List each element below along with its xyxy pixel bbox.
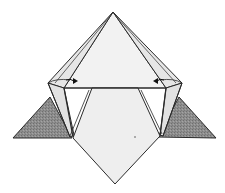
paper-speck (134, 136, 136, 138)
origami-diagram (0, 0, 225, 193)
origami-figure (0, 0, 225, 193)
